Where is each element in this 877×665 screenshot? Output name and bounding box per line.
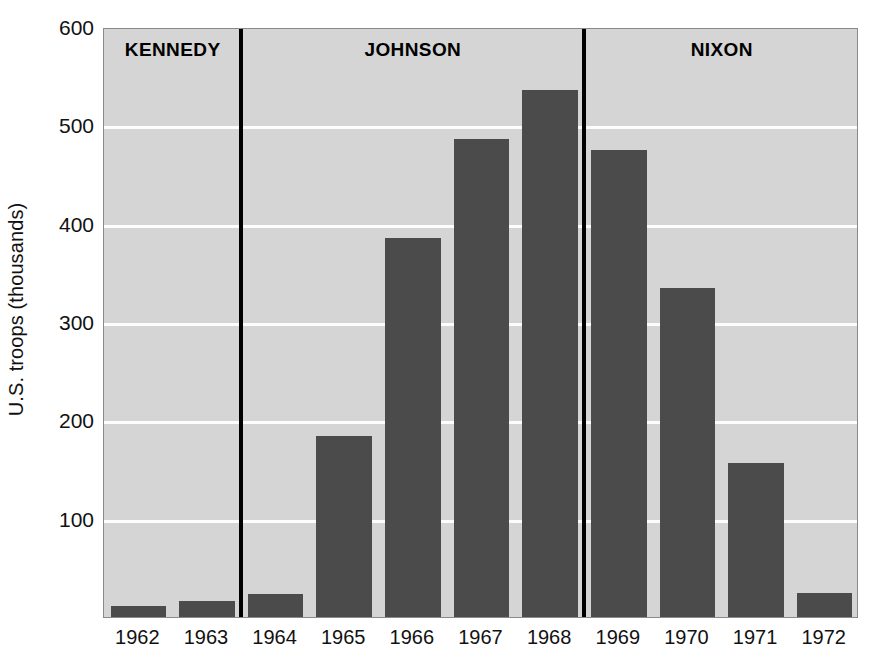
bar: [797, 593, 853, 617]
x-axis-tick-label: 1964: [252, 626, 297, 649]
bar: [660, 288, 716, 617]
gridline: [104, 126, 857, 129]
era-label: NIXON: [584, 39, 858, 61]
era-label: JOHNSON: [241, 39, 584, 61]
x-axis-tick-label: 1971: [733, 626, 778, 649]
gridline: [104, 28, 857, 31]
bar: [248, 594, 304, 617]
x-axis-tick-label: 1962: [115, 626, 160, 649]
era-divider: [239, 29, 243, 617]
x-axis-tick-label: 1972: [801, 626, 846, 649]
bar: [522, 90, 578, 617]
x-axis-tick-label: 1966: [390, 626, 435, 649]
x-axis-tick-label: 1970: [664, 626, 709, 649]
bar: [385, 238, 441, 617]
y-axis-tick-labels: 100200300400500600: [38, 0, 103, 665]
era-label: KENNEDY: [104, 39, 241, 61]
bar: [179, 601, 235, 617]
chart-figure: U.S. troops (thousands) 1002003004005006…: [0, 0, 877, 665]
x-axis-tick-label: 1968: [527, 626, 572, 649]
era-divider: [582, 29, 586, 617]
bar: [316, 436, 372, 617]
x-axis-tick-labels: 1962196319641965196619671968196919701971…: [103, 618, 858, 665]
y-axis-tick-label: 100: [38, 508, 103, 532]
bar: [728, 463, 784, 617]
y-axis-tick-label: 300: [38, 311, 103, 335]
bar: [591, 150, 647, 617]
x-axis-tick-label: 1963: [184, 626, 229, 649]
y-axis-tick-label: 200: [38, 409, 103, 433]
plot-area: KENNEDYJOHNSONNIXON: [103, 28, 858, 618]
x-axis-tick-label: 1969: [596, 626, 641, 649]
bar: [111, 606, 167, 617]
y-axis-tick-label: 500: [38, 114, 103, 138]
y-axis-label: U.S. troops (thousands): [0, 0, 34, 618]
bar: [454, 139, 510, 617]
x-axis-tick-label: 1965: [321, 626, 366, 649]
x-axis-tick-label: 1967: [458, 626, 503, 649]
y-axis-label-text: U.S. troops (thousands): [6, 202, 29, 416]
y-axis-tick-label: 400: [38, 213, 103, 237]
y-axis-tick-label: 600: [38, 16, 103, 40]
